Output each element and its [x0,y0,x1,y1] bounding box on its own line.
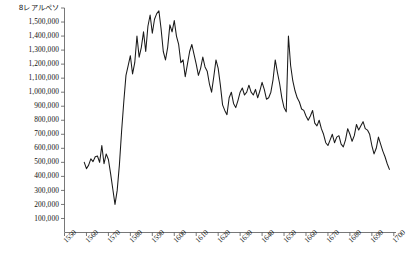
y-axis-tick-label: 200,000 [34,201,59,208]
y-axis-tick-label: 1,500,000 [29,18,59,25]
y-axis-tick-label: 300,000 [34,187,59,194]
y-axis-tick-label: 1,100,000 [29,74,59,81]
y-axis-unit-label: 8レアルペソ [19,4,59,11]
y-axis-tick-label: 400,000 [34,172,59,179]
y-axis-tick-label: 700,000 [34,130,59,137]
y-axis-tick-label: 600,000 [34,144,59,151]
y-axis-tick-label: 500,000 [34,158,59,165]
y-axis-tick-label: 1,400,000 [29,32,59,39]
y-axis-tick-label: 1,300,000 [29,46,59,53]
y-axis-tick-label: 800,000 [34,116,59,123]
y-axis-tick-label: 1,200,000 [29,60,59,67]
y-axis-ticks [61,8,65,218]
y-axis-tick-label: 900,000 [34,102,59,109]
data-series-line [84,11,389,205]
y-axis-tick-label: 1,000,000 [29,88,59,95]
y-axis-tick-label: 100,000 [34,215,59,222]
